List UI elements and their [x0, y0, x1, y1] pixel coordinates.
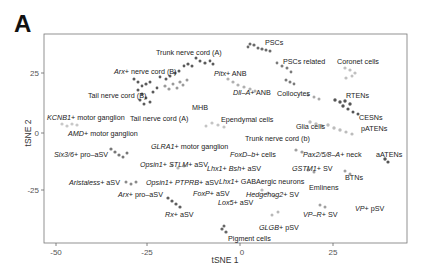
x-tick-label: -25	[141, 248, 153, 257]
cluster-label: Ependymal cells	[221, 115, 274, 124]
y-tick-label: 25	[30, 69, 39, 78]
y-tick-label: -25	[27, 186, 39, 195]
cluster-label: BTNs	[345, 173, 363, 182]
y-axis-ticks	[41, 73, 44, 190]
cluster-label: Opsin1+ PTPRB+ aSV	[146, 178, 219, 187]
cluster-label: Tail nerve cord (B)	[88, 91, 146, 100]
cluster-label: GLRA1+ motor ganglion	[151, 142, 228, 151]
cluster-label: Tail nerve cord (A)	[130, 114, 188, 123]
cluster-label: Lhx1+ Bsh+ aSV	[207, 164, 261, 173]
cluster-label: Collocytes	[277, 89, 311, 98]
x-tick-label: 25	[329, 248, 338, 257]
cluster-label: CESNs	[359, 113, 383, 122]
cluster-label: Opsin1+ STLM+ aSV	[140, 160, 208, 169]
cluster-label: AMD+ motor ganglion	[67, 129, 138, 138]
cluster-label: VP–R+ SV	[303, 210, 338, 219]
cluster-label: Arx+ pro–aSV	[117, 190, 163, 199]
cluster-label: Arx+ nerve cord (B)	[113, 67, 177, 76]
x-axis-ticks	[56, 243, 333, 246]
cluster-label: Lox5+ aSV	[218, 198, 254, 207]
tsne-scatter-plot: -50 -25 0 25 25 0 -25 tSNE 1 tSNE 2 Trun…	[0, 0, 429, 270]
cluster-label: MHB	[192, 103, 208, 112]
cluster-label: Pitx+ ANB	[214, 69, 247, 78]
cluster-label: Pax2/5/8–A+ neck	[303, 150, 362, 159]
cluster-label: Trunk nerve cord (b)	[245, 134, 310, 143]
x-axis-title: tSNE 1	[212, 255, 239, 265]
x-tick-label: 0	[240, 248, 245, 257]
cluster-label: Aristaless+ aSV	[68, 178, 120, 187]
y-axis-title: tSNE 2	[23, 119, 33, 146]
cluster-label: PSCs related	[283, 57, 325, 66]
cluster-label: KCNB1+ motor ganglion	[47, 113, 125, 122]
cluster-label: GLGB+ pSV	[259, 223, 299, 232]
cluster-label: Rx+ aSV	[165, 210, 194, 219]
cluster-label: Trunk nerve cord (A)	[156, 48, 222, 57]
x-tick-label: -50	[50, 248, 62, 257]
cluster-label: Hedgehog2+ SV	[246, 190, 299, 199]
cluster-label: VP+ pSV	[355, 204, 385, 213]
cluster-label: Emlinens	[309, 183, 339, 192]
cluster-label: GSTM1+ SV	[292, 164, 333, 173]
cluster-label: Lhx1+ GABAergic neurons	[219, 177, 305, 186]
cluster-label: Coronet cells	[337, 57, 379, 66]
cluster-label: pATENs	[361, 124, 388, 133]
cluster-label: Six3/6+ pro–aSV	[54, 150, 108, 159]
y-tick-label: 0	[35, 129, 40, 138]
cluster-label: FoxD–b+ cells	[230, 150, 276, 159]
cluster-label: RTENs	[346, 91, 369, 100]
cluster-label: Glia cells	[296, 122, 326, 131]
cluster-label: FoxP+ aSV	[193, 189, 230, 198]
cluster-label: Dll–A+ ANB	[233, 88, 271, 97]
cluster-label: PSCs	[265, 38, 284, 47]
cluster-label: Pigment cells	[228, 234, 271, 243]
cluster-label: aATENs	[376, 150, 403, 159]
